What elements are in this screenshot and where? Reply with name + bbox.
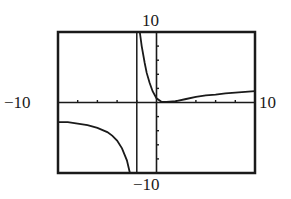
coordinate-axes xyxy=(58,32,255,173)
curve-branch xyxy=(58,122,130,173)
graph-window xyxy=(0,0,291,199)
